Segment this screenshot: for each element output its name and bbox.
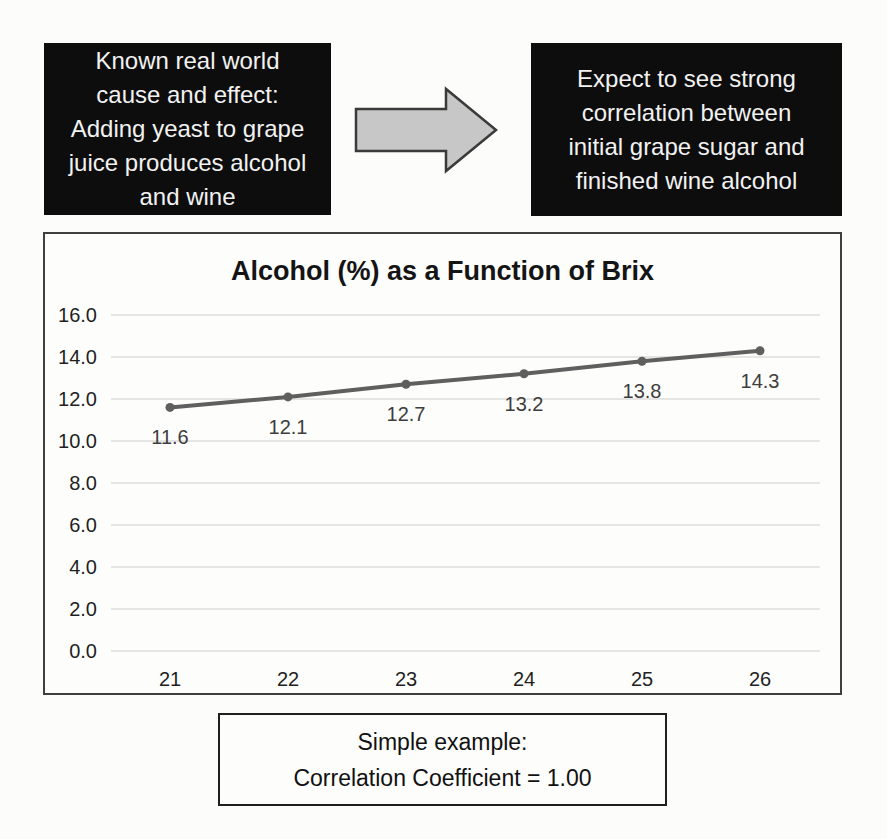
y-tick-label: 16.0 (58, 304, 97, 326)
data-point-marker (520, 369, 529, 378)
caption-text: Simple example: Correlation Coefficient … (293, 724, 591, 796)
y-tick-label: 12.0 (58, 388, 97, 410)
line-chart: 0.02.04.06.08.010.012.014.016.0212223242… (45, 234, 840, 693)
cause-box: Known real world cause and effect: Addin… (44, 43, 331, 215)
data-point-marker (638, 357, 647, 366)
x-tick-label: 25 (631, 668, 653, 690)
x-tick-label: 26 (749, 668, 771, 690)
data-point-label: 11.6 (151, 426, 188, 448)
effect-box-text: Expect to see strong correlation between… (568, 62, 804, 198)
x-tick-label: 24 (513, 668, 535, 690)
x-tick-label: 22 (277, 668, 299, 690)
data-point-marker (284, 392, 293, 401)
data-point-label: 12.7 (387, 403, 426, 425)
x-tick-label: 21 (159, 668, 181, 690)
y-tick-label: 6.0 (69, 514, 97, 536)
y-tick-label: 10.0 (58, 430, 97, 452)
chart-panel: 0.02.04.06.08.010.012.014.016.0212223242… (43, 232, 842, 695)
right-arrow-icon (354, 86, 499, 174)
cause-box-text: Known real world cause and effect: Addin… (69, 44, 306, 214)
data-point-marker (166, 403, 175, 412)
effect-box: Expect to see strong correlation between… (531, 43, 842, 216)
data-point-label: 12.1 (269, 416, 308, 438)
scanned-slide-page: Known real world cause and effect: Addin… (0, 0, 887, 839)
y-tick-label: 8.0 (69, 472, 97, 494)
y-tick-label: 2.0 (69, 598, 97, 620)
data-point-marker (756, 346, 765, 355)
data-point-label: 14.3 (741, 370, 780, 392)
data-point-marker (402, 380, 411, 389)
chart-title: Alcohol (%) as a Function of Brix (45, 256, 840, 287)
y-tick-label: 14.0 (58, 346, 97, 368)
data-point-label: 13.8 (623, 380, 662, 402)
y-tick-label: 4.0 (69, 556, 97, 578)
y-tick-label: 0.0 (69, 640, 97, 662)
x-tick-label: 23 (395, 668, 417, 690)
data-point-label: 13.2 (505, 393, 544, 415)
caption-box: Simple example: Correlation Coefficient … (218, 713, 667, 806)
